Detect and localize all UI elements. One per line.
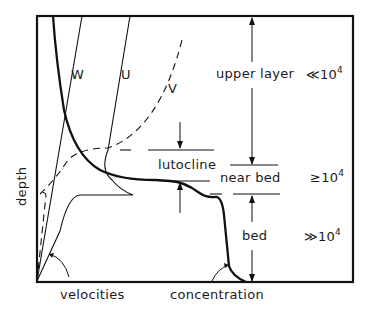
- upper-layer-arrowhead-down: [249, 157, 255, 165]
- label-w: W: [71, 68, 84, 81]
- label-near-bed: near bed: [220, 171, 281, 184]
- value-bed: ≫104: [304, 229, 341, 243]
- lutocline-arrowhead-down: [177, 141, 183, 149]
- bed-exponent: 4: [335, 227, 341, 237]
- label-lutocline: lutocline: [158, 158, 216, 171]
- label-u: U: [121, 68, 131, 81]
- curve-w: [37, 16, 82, 281]
- y-axis-label-depth: depth: [15, 167, 28, 206]
- x-axis-label-velocities: velocities: [60, 288, 125, 301]
- upper-layer-arrowhead-up: [249, 17, 255, 25]
- curve-concentration: [53, 16, 246, 282]
- diagram-canvas: [0, 0, 366, 312]
- upper-layer-name: upper layer: [216, 66, 294, 81]
- upper-layer-value: ≪10: [306, 67, 337, 82]
- angle-arc-concentration: [212, 265, 229, 281]
- near-bed-value: ≥10: [310, 170, 338, 185]
- label-bed: bed: [242, 229, 267, 242]
- near-bed-exponent: 4: [338, 168, 344, 178]
- label-v: V: [168, 82, 177, 95]
- value-near-bed: ≥104: [310, 170, 344, 184]
- label-upper-layer: upper layer: [216, 67, 294, 80]
- upper-layer-exponent: 4: [337, 65, 343, 75]
- bed-arrowhead-down: [249, 274, 255, 282]
- bed-arrowhead-up: [249, 195, 255, 203]
- curve-u: [37, 16, 133, 281]
- value-upper-layer: ≪104: [306, 67, 343, 81]
- bed-value: ≫10: [304, 229, 335, 244]
- x-axis-label-concentration: concentration: [170, 288, 264, 301]
